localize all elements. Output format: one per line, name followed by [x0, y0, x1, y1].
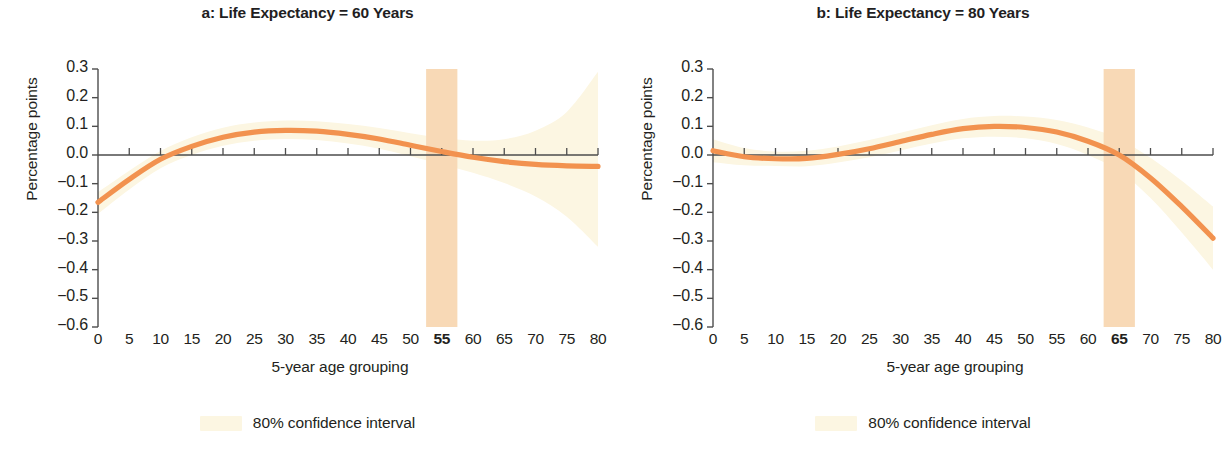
panel-a-plot: 0.30.20.10.0−0.1−0.2−0.3−0.4−0.5−0.60510… — [0, 0, 615, 460]
y-tick-label: 0.2 — [625, 87, 703, 105]
panel-b: b: Life Expectancy = 80 Years 0.30.20.10… — [615, 0, 1231, 460]
panel-a-legend: 80% confidence interval — [0, 414, 615, 432]
y-tick-label: 0.3 — [625, 58, 703, 76]
panel-b-legend: 80% confidence interval — [615, 414, 1231, 432]
y-tick-label: −0.2 — [625, 201, 703, 219]
y-tick-label: −0.3 — [625, 230, 703, 248]
ci-legend-swatch — [815, 416, 857, 431]
y-tick-label: 0.1 — [625, 115, 703, 133]
confidence-band — [98, 72, 598, 247]
panel-a: a: Life Expectancy = 60 Years 0.30.20.10… — [0, 0, 615, 460]
y-tick-label: −0.2 — [10, 201, 88, 219]
y-tick-label: −0.5 — [625, 287, 703, 305]
y-tick-label: −0.4 — [625, 259, 703, 277]
y-tick-label: −0.1 — [625, 173, 703, 191]
y-tick-label: 0.0 — [625, 144, 703, 162]
y-tick-label: −0.6 — [10, 316, 88, 334]
ci-legend-swatch — [200, 416, 242, 431]
confidence-band — [713, 116, 1213, 270]
y-tick-label: −0.3 — [10, 230, 88, 248]
y-tick-label: −0.5 — [10, 287, 88, 305]
y-tick-label: −0.6 — [625, 316, 703, 334]
y-tick-label: 0.0 — [10, 144, 88, 162]
y-tick-label: 0.1 — [10, 115, 88, 133]
panel-b-y-axis-title: Percentage points — [638, 19, 656, 259]
panel-a-y-axis-title: Percentage points — [23, 19, 41, 259]
ci-legend-label: 80% confidence interval — [253, 414, 415, 432]
y-tick-label: −0.4 — [10, 259, 88, 277]
ci-legend-label: 80% confidence interval — [868, 414, 1030, 432]
y-tick-label: 0.2 — [10, 87, 88, 105]
x-tick-label: 80 — [578, 330, 618, 348]
y-tick-label: −0.1 — [10, 173, 88, 191]
highlight-band — [426, 69, 457, 327]
x-tick-label: 80 — [1193, 330, 1231, 348]
figure-root: a: Life Expectancy = 60 Years 0.30.20.10… — [0, 0, 1231, 460]
highlight-band — [1104, 69, 1135, 327]
panel-b-plot: 0.30.20.10.0−0.1−0.2−0.3−0.4−0.5−0.60510… — [615, 0, 1231, 460]
panel-a-x-axis-title: 5-year age grouping — [90, 358, 590, 376]
y-tick-label: 0.3 — [10, 58, 88, 76]
panel-b-x-axis-title: 5-year age grouping — [705, 358, 1205, 376]
